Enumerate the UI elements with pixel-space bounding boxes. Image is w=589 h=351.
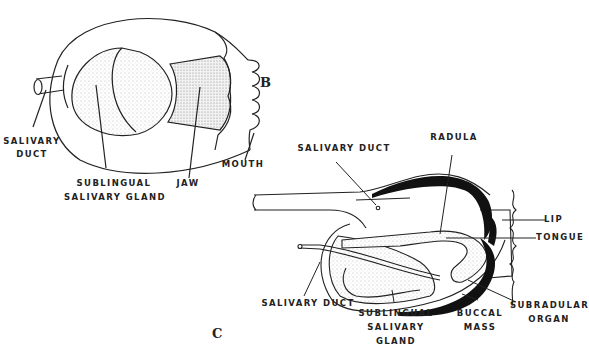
label-c-sublingual-1: SUBLINGUAL bbox=[356, 308, 436, 319]
label-b-sublingual-1: SUBLINGUAL bbox=[74, 178, 154, 189]
label-c-buccal-2: MASS bbox=[450, 322, 510, 333]
figure-b-letter: B bbox=[260, 75, 271, 90]
label-b-salivary-duct-1: SALIVARY bbox=[2, 136, 62, 147]
label-c-tongue: TONGUE bbox=[536, 232, 589, 243]
label-b-mouth: MOUTH bbox=[218, 159, 268, 170]
label-c-buccal-1: BUCCAL bbox=[450, 308, 510, 319]
figure-b-buccal-mass-exterior bbox=[33, 19, 260, 178]
label-c-subradular-2: ORGAN bbox=[510, 314, 588, 325]
label-c-lip: LIP bbox=[544, 214, 574, 225]
label-c-subradular-1: SUBRADULAR bbox=[510, 300, 588, 311]
figure-c-letter: C bbox=[212, 326, 222, 341]
label-c-sublingual-3: GLAND bbox=[356, 336, 436, 347]
label-c-salivary-duct-bottom: SALIVARY DUCT bbox=[258, 298, 358, 309]
label-c-radula: RADULA bbox=[424, 132, 484, 143]
label-b-salivary-duct-2: DUCT bbox=[2, 149, 62, 160]
label-c-salivary-duct-top: SALIVARY DUCT bbox=[294, 143, 394, 154]
label-b-jaw: JAW bbox=[170, 178, 206, 189]
label-b-sublingual-2: SALIVARY GLAND bbox=[60, 192, 170, 203]
label-c-sublingual-2: SALIVARY bbox=[356, 322, 436, 333]
